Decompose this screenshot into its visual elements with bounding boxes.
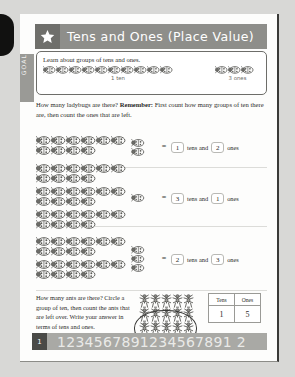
ladybug-icon xyxy=(121,65,134,74)
ladybug-icon xyxy=(82,65,95,74)
ladybug-ones xyxy=(131,193,157,202)
page-footer: 1 1234567891234567891 2 xyxy=(32,333,267,350)
ant-icon xyxy=(150,294,161,308)
tens-answer-box[interactable]: 2 xyxy=(171,254,184,265)
ladybug-icon xyxy=(228,65,241,74)
ladybug-icon xyxy=(51,246,66,256)
ladybug-icon xyxy=(147,65,160,74)
exercise-row: =3tens and1ones xyxy=(36,169,267,227)
tens-answer-box[interactable]: 1 xyxy=(171,142,184,153)
ladybug-icon xyxy=(51,259,66,269)
table-row: 1 5 xyxy=(209,306,261,323)
title-banner: Tens and Ones (Place Value) xyxy=(35,24,267,49)
ones-answer-box[interactable]: 3 xyxy=(211,254,224,265)
ant-icon xyxy=(172,294,183,308)
ones-answer-box[interactable]: 2 xyxy=(211,142,224,153)
ladybug-icon xyxy=(69,65,82,74)
ladybug-icon xyxy=(43,65,56,74)
ant-icon xyxy=(183,294,194,308)
ladybug-icon xyxy=(81,145,96,155)
ladybug-icon xyxy=(81,259,96,269)
ladybug-icon xyxy=(36,259,51,269)
ladybug-group-of-ten xyxy=(36,259,126,279)
ladybug-group-ones xyxy=(215,65,260,74)
ladybug-icon xyxy=(51,236,66,246)
goal-tens-caption: 1 ten xyxy=(43,75,193,81)
ladybug-group-of-ten xyxy=(36,209,126,229)
ant-icon xyxy=(139,294,150,308)
ladybug-icon xyxy=(111,236,126,246)
table-cell-tens[interactable]: 1 xyxy=(209,306,235,323)
page-title: Tens and Ones (Place Value) xyxy=(60,29,254,44)
ant-row xyxy=(132,294,200,308)
ladybug-icon xyxy=(66,269,81,279)
answer-expression: 1tens and2ones xyxy=(171,138,242,156)
ladybug-icon xyxy=(96,236,111,246)
ladybug-tens-groups xyxy=(36,163,131,232)
ladybug-icon xyxy=(51,173,66,183)
ladybug-icon xyxy=(81,236,96,246)
table-cell-ones[interactable]: 5 xyxy=(235,306,261,323)
ladybug-group-of-ten xyxy=(36,163,126,183)
ones-label: ones xyxy=(224,144,242,151)
tens-label: tens and xyxy=(184,144,211,151)
bottom-task-text: How many ants are there? Circle a group … xyxy=(36,293,132,336)
ladybug-icon xyxy=(66,209,81,219)
ladybug-icon xyxy=(134,65,147,74)
ladybug-ones xyxy=(131,245,157,272)
ladybug-icon xyxy=(241,65,254,74)
ladybug-icon xyxy=(131,263,145,272)
ladybug-icon xyxy=(66,186,81,196)
ladybug-icon xyxy=(51,196,66,206)
tens-label: tens and xyxy=(184,256,211,263)
goal-ones-caption: 3 ones xyxy=(215,75,260,81)
ladybug-icon xyxy=(81,135,96,145)
ones-label: ones xyxy=(224,195,242,202)
goal-example-row: 1 ten 3 ones xyxy=(43,65,260,81)
ladybug-ones xyxy=(131,138,157,156)
tens-ones-table: Tens Ones 1 5 xyxy=(208,293,261,323)
ladybug-icon xyxy=(66,145,81,155)
ant-icon xyxy=(161,308,172,322)
ladybug-icon xyxy=(111,135,126,145)
tens-answer-box[interactable]: 3 xyxy=(171,193,184,204)
ladybug-icon xyxy=(95,65,108,74)
ladybug-icon xyxy=(36,246,51,256)
number-strip: 1234567891234567891 2 xyxy=(47,334,246,350)
answer-expression: 3tens and1ones xyxy=(171,189,242,207)
ladybug-icon xyxy=(81,196,96,206)
page-number: 1 xyxy=(32,333,47,350)
ladybug-icon xyxy=(51,209,66,219)
ladybug-icon xyxy=(111,209,126,219)
ladybug-icon xyxy=(81,186,96,196)
exercise-row: =2tens and3ones xyxy=(36,227,267,291)
equals-sign: = xyxy=(157,193,171,202)
ladybug-icon xyxy=(215,65,228,74)
ladybug-icon xyxy=(66,236,81,246)
star-icon xyxy=(35,24,60,49)
ant-icon xyxy=(150,308,161,322)
ladybug-icon xyxy=(36,145,51,155)
ant-row xyxy=(132,308,200,322)
ones-answer-box[interactable]: 1 xyxy=(211,193,224,204)
ladybug-icon xyxy=(51,269,66,279)
ladybug-icon xyxy=(36,186,51,196)
ladybug-icon xyxy=(36,173,51,183)
ladybug-icon xyxy=(66,259,81,269)
ladybug-icon xyxy=(81,209,96,219)
ladybug-icon xyxy=(81,173,96,183)
page-edge-tab xyxy=(0,14,14,56)
ladybug-icon xyxy=(81,246,96,256)
tens-label: tens and xyxy=(184,195,211,202)
answer-expression: 2tens and3ones xyxy=(171,250,242,268)
bottom-task: How many ants are there? Circle a group … xyxy=(36,293,267,336)
ladybug-icon xyxy=(108,65,121,74)
ladybug-icon xyxy=(131,138,145,147)
ladybug-icon xyxy=(66,163,81,173)
ladybug-group-ten xyxy=(43,65,193,74)
ladybug-tens-groups xyxy=(36,236,131,282)
goal-heading: Learn about groups of tens and ones. xyxy=(43,56,260,63)
ones-label: ones xyxy=(224,256,242,263)
ladybug-icon xyxy=(96,135,111,145)
ant-icon xyxy=(161,294,172,308)
